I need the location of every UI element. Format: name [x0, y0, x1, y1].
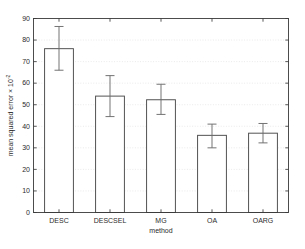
x-axis-title: method: [149, 227, 172, 234]
ytick-label: 0: [26, 209, 30, 216]
bar-mg: [147, 100, 176, 213]
bar-desc: [45, 49, 74, 213]
ytick-label: 90: [22, 15, 30, 22]
xtick-label-oarg: OARG: [253, 217, 274, 224]
ytick-label: 70: [22, 58, 30, 65]
ytick-label: 40: [22, 123, 30, 130]
y-axis-title: mean squared error × 10-2: [5, 74, 15, 156]
xtick-label-descsel: DESCSEL: [94, 217, 127, 224]
bar-chart-canvas: 0102030405060708090DESCDESCSELMGOAOARGme…: [0, 0, 305, 249]
xtick-label-oa: OA: [207, 217, 217, 224]
chart-figure: 0102030405060708090DESCDESCSELMGOAOARGme…: [0, 0, 305, 249]
xtick-label-mg: MG: [155, 217, 166, 224]
ytick-label: 50: [22, 101, 30, 108]
ytick-label: 10: [22, 187, 30, 194]
bar-oarg: [249, 133, 278, 212]
xtick-label-desc: DESC: [49, 217, 68, 224]
ytick-label: 60: [22, 79, 30, 86]
ytick-label: 80: [22, 36, 30, 43]
ytick-label: 30: [22, 144, 30, 151]
ytick-label: 20: [22, 166, 30, 173]
